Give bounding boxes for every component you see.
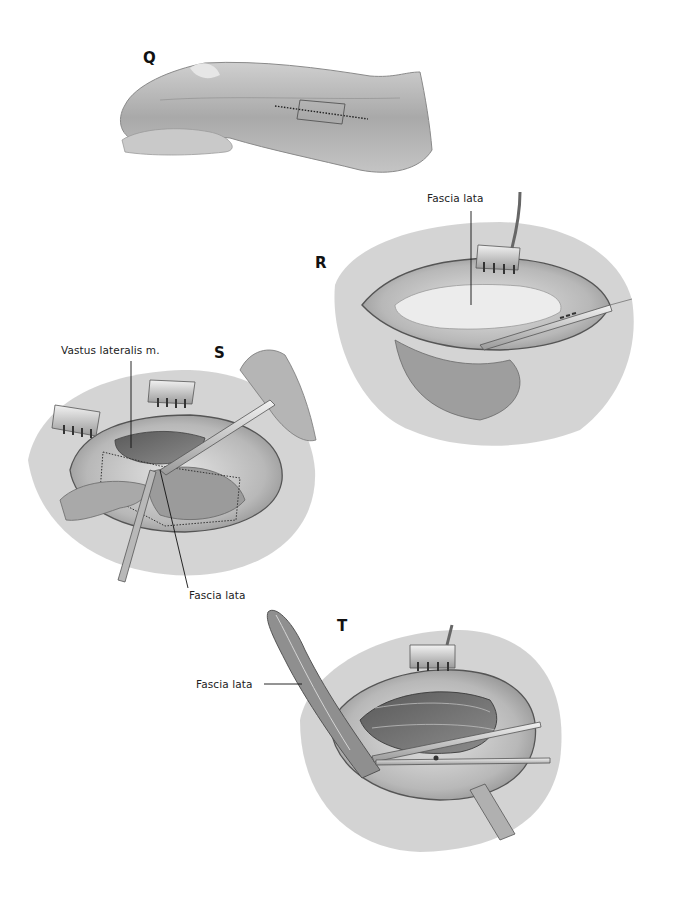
panel-t-excision	[267, 610, 561, 852]
label-s-vastus-lateralis: Vastus lateralis m.	[61, 344, 160, 356]
surgical-illustration	[0, 0, 674, 900]
panel-letter-s: S	[214, 344, 225, 362]
label-r-fascia-lata: Fascia lata	[427, 192, 483, 204]
panel-s-incision	[28, 350, 316, 582]
panel-r-exposure	[334, 192, 633, 446]
panel-letter-q: Q	[143, 49, 156, 67]
panel-letter-t: T	[337, 617, 347, 635]
label-s-fascia-lata: Fascia lata	[189, 589, 245, 601]
label-t-fascia-lata: Fascia lata	[196, 678, 252, 690]
panel-letter-r: R	[315, 254, 327, 272]
panel-q-thigh	[120, 62, 432, 172]
